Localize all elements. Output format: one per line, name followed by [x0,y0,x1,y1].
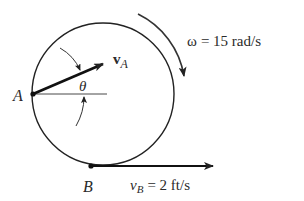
velocity-a-subscript: A [120,57,129,71]
velocity-b-value: = 2 ft/s [147,177,190,193]
angular-velocity-arrow [138,14,184,76]
velocity-b-label: vB= 2 ft/s [130,177,190,195]
velocity-b-subscript: B [137,183,144,195]
omega-symbol: ω [187,33,197,49]
wheel-kinematics-diagram: A θ vA ω= 15 rad/s B vB= 2 ft/s [0,0,304,201]
angle-arc-lower [76,97,84,126]
angular-velocity-label: ω= 15 rad/s [187,33,261,49]
point-a-dot [30,91,35,96]
point-b-label: B [83,178,93,195]
velocity-a-label: vA [113,51,129,71]
angle-arc-upper [60,48,80,70]
point-a-label: A [12,87,23,104]
angle-label: θ [79,78,87,94]
omega-value: = 15 rad/s [201,33,261,49]
velocity-a-arrow [33,64,103,94]
